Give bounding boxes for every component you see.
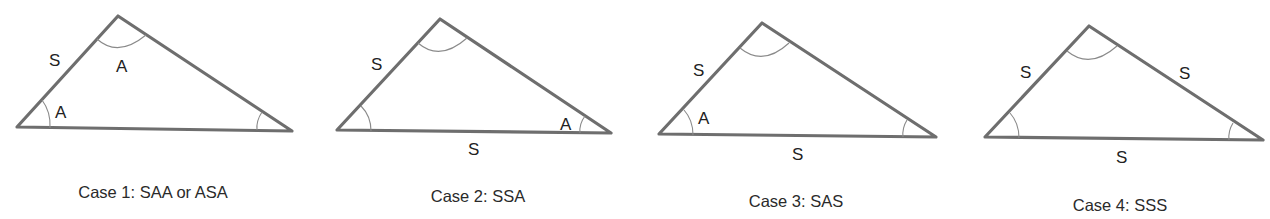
angle-arc-top: [740, 43, 789, 56]
side-label-bottom: S: [1116, 148, 1127, 167]
angle-label-top: A: [116, 57, 128, 76]
angle-arc-right: [257, 112, 262, 130]
angle-arc-top: [1067, 46, 1117, 59]
angle-arc-left: [361, 106, 371, 131]
angle-arc-left: [42, 100, 50, 128]
case-3-triangle: S A S Case 3: SAS: [659, 23, 936, 210]
angle-arc-right: [1229, 123, 1233, 140]
side-label-left: S: [49, 51, 60, 70]
side-label-left: S: [371, 55, 382, 74]
case-caption: Case 1: SAA or ASA: [78, 183, 228, 201]
case-caption: Case 3: SAS: [749, 192, 843, 210]
side-label-bottom: S: [792, 145, 803, 164]
angle-arc-top: [97, 35, 146, 48]
angle-arc-right: [903, 120, 907, 137]
angle-label-right: A: [560, 115, 572, 134]
side-label-left: S: [1020, 63, 1031, 82]
triangle-outline: [985, 26, 1263, 140]
angle-arc-top: [418, 38, 467, 51]
angle-arc-right: [580, 116, 585, 133]
angle-label-left: A: [55, 103, 67, 122]
triangle-cases-diagram: S A A Case 1: SAA or ASA S A S Case 2: S…: [0, 0, 1270, 219]
side-label-right: S: [1179, 64, 1190, 83]
side-label-bottom: S: [468, 140, 479, 159]
angle-label-left: A: [698, 109, 710, 128]
case-caption: Case 2: SSA: [431, 187, 525, 205]
case-1-triangle: S A A Case 1: SAA or ASA: [17, 16, 292, 201]
angle-arc-left: [684, 110, 693, 135]
case-caption: Case 4: SSS: [1073, 196, 1167, 214]
case-4-triangle: S S S Case 4: SSS: [985, 26, 1263, 214]
case-2-triangle: S A S Case 2: SSA: [337, 19, 611, 205]
side-label-left: S: [693, 61, 704, 80]
angle-arc-left: [1010, 113, 1019, 138]
